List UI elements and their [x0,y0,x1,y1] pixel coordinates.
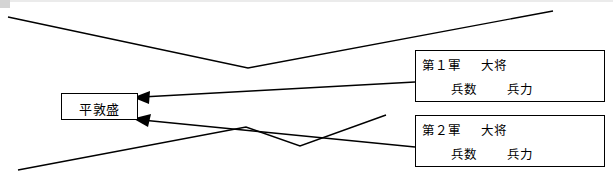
army-2-title-text: 第２軍 [422,123,461,138]
army-1-field-power: 兵力 [507,82,533,97]
lower-zigzag-line [18,115,386,170]
army-2-fields: 兵数 兵力 [451,144,533,163]
army-2-rank-text: 大将 [481,123,507,138]
army-1-rank-text: 大将 [481,58,507,73]
army-2-field-power: 兵力 [507,147,533,162]
diagram-canvas: 平敦盛 第１軍 大将 兵数 兵力 第２軍 大将 兵数 兵力 [0,0,613,180]
target-node-label: 平敦盛 [61,99,138,118]
arrow-army2-line [142,120,415,147]
arrow-army1-line [142,82,415,97]
army-1-fields: 兵数 兵力 [451,79,533,98]
army-2-field-troops: 兵数 [451,147,477,162]
army-2-title: 第２軍 大将 [422,120,507,139]
army-1-field-troops: 兵数 [451,82,477,97]
army-1-title: 第１軍 大将 [422,55,507,74]
army-1-title-text: 第１軍 [422,58,461,73]
